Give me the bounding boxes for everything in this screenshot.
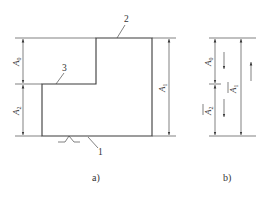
svg-text:A2: A2 <box>203 107 214 117</box>
diagram-b: A0 A2 A1 b) <box>203 38 256 184</box>
svg-text:A0: A0 <box>11 58 22 68</box>
part-outline <box>42 38 152 136</box>
chain-label-a1: A1 <box>228 85 239 95</box>
svg-text:A1: A1 <box>157 84 168 94</box>
dimension-label-a2: A2 <box>11 107 22 117</box>
dimension-label-a0: A0 <box>11 58 22 68</box>
diagram-a: A0 A2 A1 2 3 1 a) <box>11 14 176 184</box>
chain-label-a0: A0 <box>203 58 214 68</box>
dimension-chain-diagram: A0 A2 A1 2 3 1 a) A0 A2 <box>0 0 265 198</box>
svg-text:A0: A0 <box>203 58 214 68</box>
part-label-2: 2 <box>124 14 129 24</box>
part-label-1: 1 <box>98 147 103 157</box>
leader-line-2 <box>117 25 125 38</box>
svg-text:A1: A1 <box>228 85 239 95</box>
chain-label-a2: A2 <box>203 107 214 117</box>
caption-a: a) <box>92 172 100 184</box>
leader-line-1 <box>88 137 98 148</box>
leader-line-3 <box>56 73 64 84</box>
caption-b: b) <box>223 172 231 184</box>
datum-symbol-icon <box>58 136 80 142</box>
part-label-3: 3 <box>62 63 67 73</box>
dimension-label-a1: A1 <box>157 84 168 94</box>
svg-text:A2: A2 <box>11 107 22 117</box>
